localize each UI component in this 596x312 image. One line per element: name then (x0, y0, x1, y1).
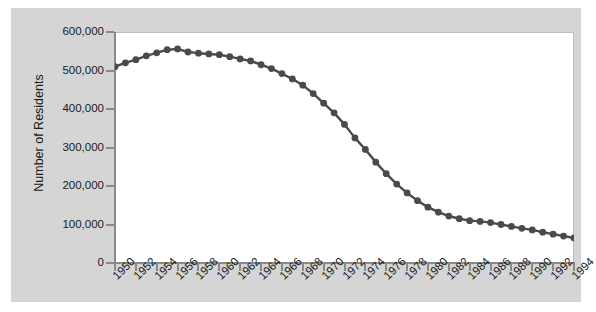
data-point-marker (115, 63, 118, 70)
data-point-marker (279, 70, 286, 77)
data-point-marker (331, 109, 338, 116)
data-point-marker (414, 197, 421, 204)
y-axis-tick-label: 200,000 (62, 180, 104, 192)
data-point-marker (226, 53, 233, 60)
data-point-marker (352, 134, 359, 141)
y-axis-tick-label-row: 300,000 (11, 148, 104, 149)
data-point-marker (404, 190, 411, 197)
data-series-residents (115, 32, 574, 263)
chart-panel: Number of Residents 600,000500,000400,00… (11, 8, 581, 302)
data-point-marker (205, 51, 212, 58)
y-axis-tick-mark (106, 147, 114, 149)
y-axis-tick-label: 600,000 (62, 26, 104, 38)
y-axis-tick-label-row: 500,000 (11, 71, 104, 72)
data-point-marker (529, 226, 536, 233)
data-point-marker (435, 209, 442, 216)
data-point-marker (122, 59, 129, 66)
data-point-marker (341, 121, 348, 128)
data-point-marker (518, 225, 525, 232)
data-point-marker (362, 146, 369, 153)
data-point-marker (393, 181, 400, 188)
data-point-marker (247, 57, 254, 64)
data-point-marker (383, 170, 390, 177)
data-point-marker (445, 213, 452, 220)
y-axis-tick-label: 100,000 (62, 219, 104, 231)
y-axis-tick-label: 400,000 (62, 103, 104, 115)
data-point-marker (550, 231, 557, 238)
data-point-marker (299, 82, 306, 89)
data-point-marker (320, 100, 327, 107)
y-axis-tick-mark (106, 70, 114, 72)
data-point-marker (164, 46, 171, 53)
y-axis-tick-label: 0 (98, 257, 104, 269)
y-axis-tick-label-row: 0 (11, 263, 104, 264)
y-axis-tick-label-row: 600,000 (11, 32, 104, 33)
series-line (115, 49, 574, 238)
data-point-marker (466, 217, 473, 224)
data-point-marker (143, 52, 150, 59)
y-axis-tick-mark (106, 31, 114, 33)
data-point-marker (487, 219, 494, 226)
data-point-marker (310, 90, 317, 97)
data-point-marker (456, 215, 463, 222)
y-axis-tick-mark (106, 262, 114, 264)
data-point-marker (425, 204, 432, 211)
data-point-marker (571, 235, 574, 242)
data-point-marker (237, 56, 244, 63)
y-axis-tick-label: 500,000 (62, 65, 104, 77)
data-point-marker (268, 65, 275, 72)
y-axis-tick-mark (106, 108, 114, 110)
data-point-marker (560, 233, 567, 240)
y-axis-tick-label-row: 400,000 (11, 109, 104, 110)
data-point-marker (477, 218, 484, 225)
data-point-marker (195, 50, 202, 57)
data-point-marker (508, 223, 515, 230)
y-axis-tick-label: 300,000 (62, 142, 104, 154)
data-point-marker (258, 61, 265, 68)
y-axis-tick-label-row: 100,000 (11, 225, 104, 226)
y-axis-tick-label-row: 200,000 (11, 186, 104, 187)
data-point-marker (132, 56, 139, 63)
data-point-marker (289, 76, 296, 83)
data-point-marker (372, 159, 379, 166)
data-point-marker (539, 229, 546, 236)
data-point-marker (216, 51, 223, 58)
y-axis-tick-mark (106, 224, 114, 226)
data-point-marker (498, 221, 505, 228)
data-point-marker (153, 49, 160, 56)
data-point-marker (174, 46, 181, 53)
data-point-marker (185, 49, 192, 56)
y-axis-tick-mark (106, 185, 114, 187)
